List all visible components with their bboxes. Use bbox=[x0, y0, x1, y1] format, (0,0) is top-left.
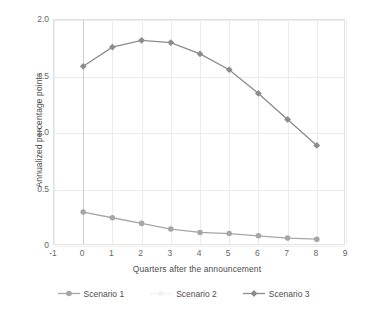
diamond-marker bbox=[138, 37, 145, 44]
x-axis-title: Quarters after the announcement bbox=[48, 264, 346, 274]
y-axis-tick-label: 2.0 bbox=[5, 15, 49, 24]
gridline-vertical bbox=[346, 20, 347, 244]
diamond-marker bbox=[243, 288, 265, 299]
x-axis-tick-label: 7 bbox=[272, 249, 302, 258]
legend-item-2[interactable]: Scenario 2 bbox=[150, 288, 217, 299]
circle-marker bbox=[285, 235, 291, 241]
x-axis-tick-label: 2 bbox=[126, 249, 156, 258]
legend-label: Scenario 3 bbox=[269, 289, 310, 299]
legend-item-3[interactable]: Scenario 3 bbox=[243, 288, 310, 299]
plot-area bbox=[53, 19, 345, 245]
circle-marker bbox=[150, 288, 172, 299]
x-axis-tick-label: 5 bbox=[213, 249, 243, 258]
circle-marker bbox=[168, 226, 174, 232]
diamond-marker bbox=[197, 51, 204, 58]
legend-label: Scenario 2 bbox=[176, 289, 217, 299]
gridline-horizontal bbox=[54, 246, 344, 247]
circle-marker bbox=[110, 215, 116, 221]
legend-label: Scenario 1 bbox=[84, 289, 125, 299]
x-axis-tick-label: 1 bbox=[96, 249, 126, 258]
y-axis-tick-label: 0.5 bbox=[5, 185, 49, 194]
y-axis-tick-label: 1.0 bbox=[5, 128, 49, 137]
series-1 bbox=[80, 209, 319, 242]
circle-marker bbox=[158, 291, 164, 297]
circle-marker bbox=[66, 291, 72, 297]
circle-marker bbox=[80, 209, 86, 215]
x-axis-tick-label: 8 bbox=[301, 249, 331, 258]
x-axis-tick-label: 4 bbox=[184, 249, 214, 258]
circle-marker bbox=[314, 236, 320, 242]
x-axis-tick-label: 9 bbox=[330, 249, 360, 258]
circle-marker bbox=[197, 230, 203, 236]
x-axis-tick-label: 0 bbox=[67, 249, 97, 258]
x-axis-tick-label: -1 bbox=[38, 249, 68, 258]
chart-legend: Scenario 1Scenario 2Scenario 3 bbox=[0, 288, 367, 299]
diamond-marker bbox=[109, 44, 116, 51]
circle-marker bbox=[256, 233, 262, 239]
circle-marker bbox=[226, 231, 232, 237]
diamond-marker bbox=[250, 290, 257, 297]
x-axis-tick-label: 6 bbox=[242, 249, 272, 258]
y-axis-tick-label: 1.5 bbox=[5, 72, 49, 81]
diamond-marker bbox=[167, 39, 174, 46]
circle-marker bbox=[58, 288, 80, 299]
diamond-marker bbox=[80, 63, 87, 70]
x-axis-tick-label: 3 bbox=[155, 249, 185, 258]
circle-marker bbox=[139, 221, 145, 227]
legend-item-1[interactable]: Scenario 1 bbox=[58, 288, 125, 299]
series-3 bbox=[80, 37, 320, 149]
line-chart: Annualized percentage points 2.01.51.00.… bbox=[0, 0, 367, 320]
series-layer bbox=[54, 20, 346, 246]
